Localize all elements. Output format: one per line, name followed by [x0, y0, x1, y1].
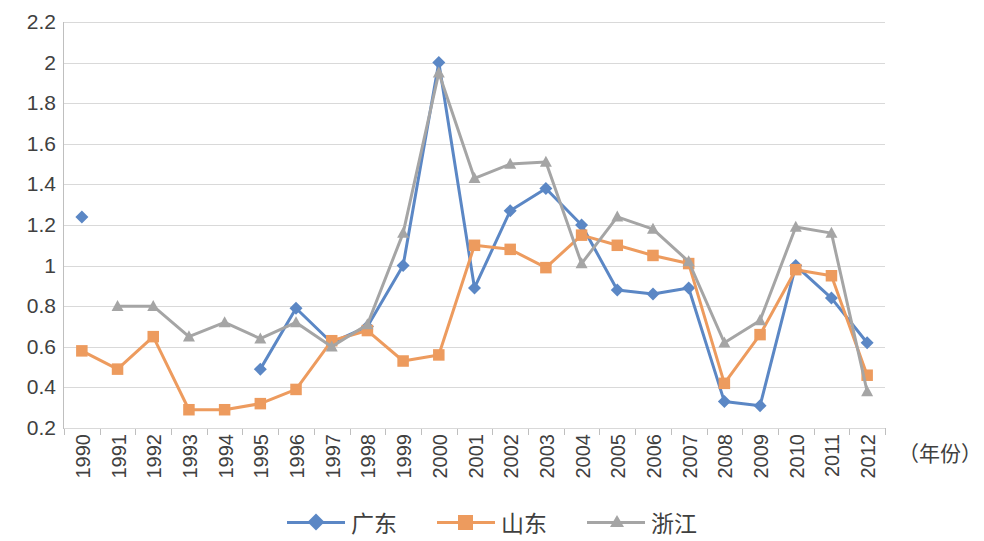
data-point-marker [290, 384, 302, 396]
x-tick-label: 2007 [679, 434, 702, 479]
y-tick-label: 0.8 [4, 294, 56, 318]
y-tick-label: 1.4 [4, 172, 56, 196]
x-tick-label: 1992 [143, 434, 166, 479]
legend-item-山东[interactable]: 山东 [437, 505, 547, 539]
legend-swatch [437, 511, 495, 533]
data-point-marker [826, 270, 838, 282]
data-point-marker [790, 264, 802, 276]
x-tick-label: 1996 [286, 434, 309, 479]
x-tick-mark [742, 429, 743, 435]
series-line [82, 235, 867, 410]
x-tick-mark [492, 429, 493, 435]
data-point-marker [754, 314, 766, 325]
x-tick-label: 1990 [72, 434, 95, 479]
y-tick-label: 0.2 [4, 416, 56, 440]
data-point-marker [255, 398, 267, 410]
x-tick-label: 2008 [714, 434, 737, 479]
x-tick-label: 2000 [429, 434, 452, 479]
y-tick-label: 0.4 [4, 375, 56, 399]
data-point-marker [612, 240, 624, 252]
y-tick-label: 2.2 [4, 10, 56, 34]
data-point-marker [397, 259, 410, 272]
data-point-marker [147, 331, 159, 343]
legend-item-浙江[interactable]: 浙江 [587, 505, 697, 539]
legend-item-广东[interactable]: 广东 [287, 505, 397, 539]
data-point-marker [469, 240, 481, 252]
x-tick-label: 1995 [250, 434, 273, 479]
legend-swatch [587, 511, 645, 533]
x-tick-label: 2006 [643, 434, 666, 479]
y-tick-label: 0.6 [4, 335, 56, 359]
series-浙江 [112, 66, 874, 396]
x-tick-mark [671, 429, 672, 435]
x-tick-mark [171, 429, 172, 435]
legend-label: 山东 [501, 505, 547, 539]
x-tick-mark [242, 429, 243, 435]
legend-swatch [287, 511, 345, 533]
data-point-marker [76, 345, 88, 357]
y-tick-label: 1.8 [4, 91, 56, 115]
data-point-marker [754, 399, 767, 412]
data-point-marker [647, 250, 659, 262]
x-tick-label: 2005 [607, 434, 630, 479]
x-tick-mark [207, 429, 208, 435]
y-tick-label: 2 [4, 51, 56, 75]
x-tick-mark [421, 429, 422, 435]
data-point-marker [219, 316, 231, 327]
data-point-marker [611, 211, 623, 222]
legend-marker-diamond-icon [308, 514, 325, 531]
data-point-marker [754, 329, 766, 341]
x-tick-mark [599, 429, 600, 435]
x-tick-label: 1998 [357, 434, 380, 479]
x-tick-mark [457, 429, 458, 435]
x-axis-tick-labels: 1990199119921993199419951996199719981999… [64, 434, 885, 514]
data-point-marker [397, 355, 409, 367]
x-tick-mark [100, 429, 101, 435]
line-chart: 2.221.81.61.41.210.80.60.40.2 1990199119… [0, 0, 984, 541]
y-tick-label: 1 [4, 254, 56, 278]
data-point-marker [433, 349, 445, 361]
data-point-marker [112, 363, 124, 375]
series-layer [64, 22, 885, 428]
x-tick-label: 1994 [215, 434, 238, 479]
series-广东 [75, 56, 873, 412]
x-tick-label: 2011 [821, 434, 844, 477]
x-tick-mark [849, 429, 850, 435]
x-tick-label: 2009 [750, 434, 773, 479]
data-point-marker [433, 66, 445, 77]
x-tick-mark [64, 429, 65, 435]
data-point-marker [75, 210, 88, 223]
data-point-marker [254, 363, 267, 376]
x-tick-mark [350, 429, 351, 435]
data-point-marker [719, 378, 731, 390]
x-tick-label: 2004 [572, 434, 595, 479]
x-tick-mark [278, 429, 279, 435]
data-point-marker [504, 244, 516, 256]
x-tick-mark [135, 429, 136, 435]
x-tick-mark [564, 429, 565, 435]
x-tick-mark [885, 429, 886, 435]
data-point-marker [718, 336, 730, 347]
y-tick-label: 1.2 [4, 213, 56, 237]
legend-label: 广东 [351, 505, 397, 539]
x-tick-mark [528, 429, 529, 435]
x-tick-label: 1991 [108, 434, 131, 479]
data-point-marker [219, 404, 231, 416]
x-tick-label: 1997 [322, 434, 345, 479]
x-tick-mark [635, 429, 636, 435]
x-tick-mark [814, 429, 815, 435]
x-tick-mark [385, 429, 386, 435]
x-axis-title: （年份） [898, 437, 982, 467]
data-point-marker [718, 395, 731, 408]
y-tick-label: 1.6 [4, 132, 56, 156]
data-point-marker [576, 229, 588, 241]
x-tick-label: 1999 [393, 434, 416, 479]
x-tick-label: 2001 [465, 434, 488, 479]
x-tick-label: 2012 [857, 434, 880, 479]
legend-label: 浙江 [651, 505, 697, 539]
data-point-marker [646, 288, 659, 301]
data-point-marker [397, 227, 409, 238]
series-山东 [76, 229, 873, 415]
legend-marker-square-icon [458, 515, 473, 530]
x-axis-line [64, 428, 886, 429]
